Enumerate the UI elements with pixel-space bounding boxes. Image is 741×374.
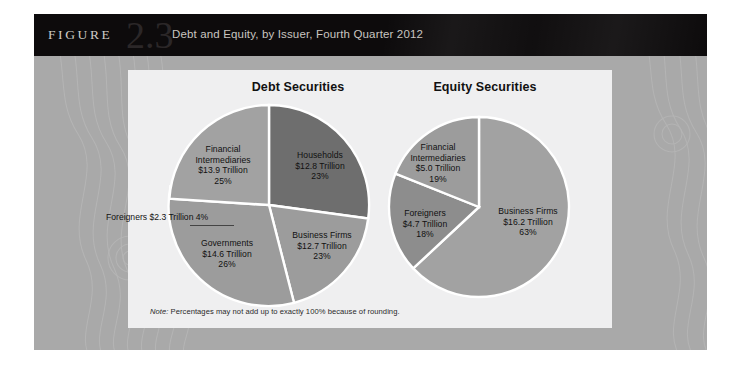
figure-header-band: FIGURE 2.3 Debt and Equity, by Issuer, F… [34,14,707,56]
figure-number: 2.3 [126,14,174,56]
chart-note: Note: Percentages may not add up to exac… [150,307,400,316]
figure-word-label: FIGURE [48,27,112,43]
debt-label-governments: Governments $14.6 Trillion 26% [180,238,274,270]
note-label: Note: [150,307,168,316]
debt-foreigners-leader-line [190,225,234,226]
figure-title: Debt and Equity, by Issuer, Fourth Quart… [172,28,423,40]
equity-label-financial-intermediaries: Financial Intermediaries $5.0 Trillion 1… [394,142,482,184]
debt-pie-svg [166,102,372,308]
chart-card: Debt Securities Equity Securities Househ… [128,70,612,328]
equity-securities-pie-chart: Business Firms $16.2 Trillion 63% Foreig… [386,114,572,300]
debt-securities-pie-chart: Households $12.8 Trillion 23% Business F… [166,102,372,308]
debt-label-foreigners: Foreigners $2.3 Trillion 4% [106,212,188,223]
equity-label-business-firms: Business Firms $16.2 Trillion 63% [482,206,574,238]
note-text: Percentages may not add up to exactly 10… [171,307,400,316]
debt-label-financial-intermediaries: Financial Intermediaries $13.9 Trillion … [176,144,270,186]
debt-securities-title: Debt Securities [188,80,408,94]
debt-label-households: Households $12.8 Trillion 23% [274,150,366,182]
figure-root: FIGURE 2.3 Debt and Equity, by Issuer, F… [0,0,741,374]
debt-label-business-firms: Business Firms $12.7 Trillion 23% [276,230,368,262]
equity-securities-title: Equity Securities [380,80,590,94]
equity-label-foreigners: Foreigners $4.7 Trillion 18% [382,208,468,240]
